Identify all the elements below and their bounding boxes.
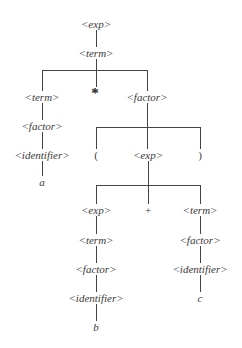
connector-line <box>200 275 201 292</box>
branch-line <box>42 70 148 71</box>
connector-line <box>148 161 149 204</box>
node-exp: <exp> <box>132 149 164 161</box>
node-exp: <exp> <box>80 204 112 216</box>
node-factor: <factor> <box>20 120 63 132</box>
connector-line <box>200 246 201 263</box>
operator-plus: + <box>144 204 152 216</box>
node-identifier: <identifier> <box>13 149 70 161</box>
branch-line <box>96 127 201 128</box>
connector-line <box>147 103 148 149</box>
leaf-b: b <box>92 321 100 333</box>
parse-tree-diagram: <exp><term><term>*<factor><factor><ident… <box>0 0 242 348</box>
connector-line <box>147 70 148 91</box>
connector-line <box>96 275 97 292</box>
node-identifier: <identifier> <box>171 263 228 275</box>
connector-line <box>96 216 97 234</box>
connector-line <box>42 161 43 176</box>
connector-line <box>200 216 201 234</box>
node-identifier: <identifier> <box>67 292 124 304</box>
node-factor: <factor> <box>125 91 168 103</box>
symbol-open-paren: ( <box>93 149 99 161</box>
leaf-a: a <box>38 176 46 188</box>
branch-line <box>96 185 201 186</box>
connector-line <box>42 70 43 91</box>
connector-line <box>96 30 97 47</box>
connector-line <box>96 185 97 204</box>
leaf-c: c <box>197 292 204 304</box>
connector-line <box>42 132 43 149</box>
connector-line <box>200 185 201 204</box>
node-term: <term> <box>77 234 114 246</box>
operator-multiply: * <box>90 87 100 99</box>
node-factor: <factor> <box>178 234 221 246</box>
connector-line <box>96 127 97 149</box>
node-exp: <exp> <box>80 18 112 30</box>
node-term: <term> <box>23 91 60 103</box>
node-term: <term> <box>181 204 218 216</box>
connector-line <box>96 246 97 263</box>
symbol-close-paren: ) <box>197 149 203 161</box>
node-term: <term> <box>77 47 114 59</box>
connector-line <box>42 103 43 120</box>
connector-line <box>96 304 97 321</box>
node-factor: <factor> <box>74 263 117 275</box>
connector-line <box>200 127 201 149</box>
connector-line <box>96 59 97 88</box>
